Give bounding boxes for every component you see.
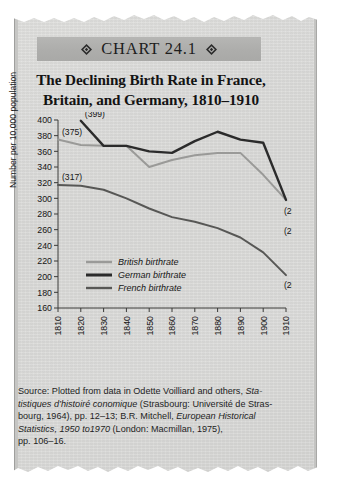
source-line-3: bourg, 1964), pp. 12–13; B.R. Mitchell, …	[18, 410, 290, 423]
y-axis-tick-label: 300	[37, 194, 52, 204]
y-axis-tick-label: 400	[37, 115, 52, 125]
source-italic: tistiques d’histoiré conomique	[18, 399, 137, 409]
y-axis-tick-label: 280	[37, 209, 52, 219]
y-axis-tick-label: 360	[37, 147, 52, 157]
source-text: (Strasbourg: Université de Stras-	[137, 399, 272, 409]
chart-page: CHART 24.1 The Declining Birth Rate in F…	[0, 0, 342, 489]
x-axis-tick-label: 1850	[145, 316, 155, 336]
y-axis-label: Number per 10,000 population	[8, 72, 18, 188]
data-point-annotation: (272)	[284, 226, 292, 236]
x-axis-tick-label: 1890	[236, 316, 246, 336]
y-axis-tick-label: 220	[37, 256, 52, 266]
source-italic: European Historical	[176, 411, 255, 421]
y-axis-tick-label: 160	[37, 303, 52, 313]
line-chart: Number per 10,000 population 16018020022…	[14, 112, 292, 362]
legend-entry-label: German birthrate	[118, 270, 186, 280]
y-axis-tick-label: 320	[37, 178, 52, 188]
source-citation: Source: Plotted from data in Odette Voil…	[18, 385, 290, 448]
y-axis-tick-label: 260	[37, 225, 52, 235]
x-axis-tick-label: 1810	[53, 316, 63, 336]
data-point-annotation: (375)	[62, 127, 82, 137]
x-axis-tick-label: 1910	[281, 316, 291, 336]
torn-edge-top	[13, 13, 318, 29]
y-axis-tick-label: 180	[37, 288, 52, 298]
page-title-line-2: Britain, and Germany, 1810–1910	[20, 90, 282, 110]
torn-edge-bottom	[13, 461, 318, 477]
source-text: (London: Macmillan, 1975),	[110, 424, 223, 434]
series-line	[81, 121, 286, 200]
diamond-ornament-icon	[206, 44, 217, 55]
banner-label: CHART 24.1	[101, 39, 197, 59]
source-text: Source: Plotted from data in Odette Voil…	[18, 386, 245, 396]
page-title-line-1: The Declining Birth Rate in France,	[20, 70, 282, 90]
y-axis-tick-label: 200	[37, 272, 52, 282]
chart-plot-area: 1601802002202402602803003203403603804001…	[14, 112, 292, 362]
y-axis-tick-label: 340	[37, 162, 52, 172]
legend-entry-label: British birthrate	[118, 257, 179, 267]
data-point-annotation: (298)	[284, 206, 292, 216]
page-right-edge	[314, 14, 318, 476]
x-axis-tick-label: 1840	[122, 316, 132, 336]
series-line	[58, 140, 286, 200]
data-point-annotation: (317)	[62, 172, 82, 182]
page-title: The Declining Birth Rate in France, Brit…	[20, 70, 282, 110]
source-line-5: pp. 106–16.	[18, 435, 290, 448]
source-line-4: Statistics, 1950 to1970 (London: Macmill…	[18, 423, 290, 436]
x-axis-tick-label: 1820	[76, 316, 86, 336]
data-point-annotation: (202)	[284, 280, 292, 290]
x-axis-tick-label: 1830	[99, 316, 109, 336]
source-text: bourg, 1964), pp. 12–13; B.R. Mitchell,	[18, 411, 176, 421]
source-italic: Sta-	[245, 386, 262, 396]
legend-entry-label: French birthrate	[118, 283, 182, 293]
x-axis-tick-label: 1900	[259, 316, 269, 336]
data-point-annotation: (399)	[85, 112, 105, 119]
source-line-2: tistiques d’histoiré conomique (Strasbou…	[18, 398, 290, 411]
source-italic: Statistics, 1950 to1970	[18, 424, 110, 434]
x-axis-tick-label: 1870	[190, 316, 200, 336]
chart-number-banner: CHART 24.1	[37, 37, 261, 61]
source-line-1: Source: Plotted from data in Odette Voil…	[18, 385, 290, 398]
y-axis-tick-label: 380	[37, 131, 52, 141]
y-axis-tick-label: 240	[37, 241, 52, 251]
x-axis-tick-label: 1860	[167, 316, 177, 336]
x-axis-tick-label: 1880	[213, 316, 223, 336]
diamond-ornament-icon	[81, 44, 92, 55]
